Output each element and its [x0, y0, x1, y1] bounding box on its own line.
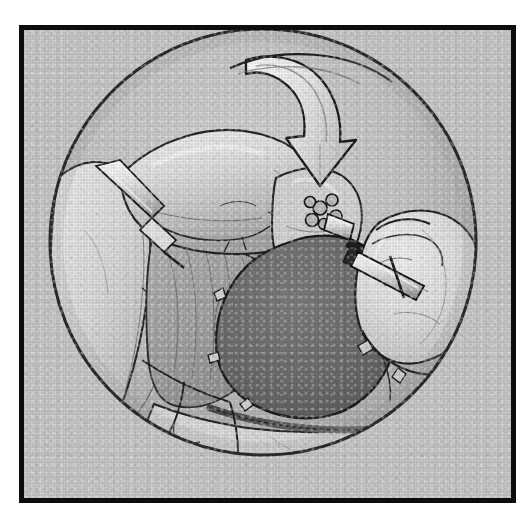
figure-root: Laparoscopic operative field illustratio… [0, 0, 532, 519]
illustration-frame [19, 25, 516, 503]
illustration-canvas [24, 30, 511, 498]
